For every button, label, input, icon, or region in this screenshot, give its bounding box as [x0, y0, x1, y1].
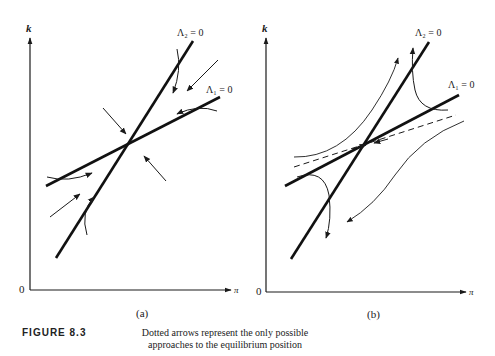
panel-a-sublabel: (a): [136, 307, 148, 319]
lambda2-line-b: [291, 42, 429, 259]
arrow-a-4: [50, 194, 80, 217]
stable-arm-dashed: [294, 115, 456, 167]
origin-label-b: 0: [256, 285, 262, 297]
lambda2-label-b: Λ₂ = 0: [415, 27, 441, 38]
figure-canvas: [0, 0, 495, 356]
lambda1-label-a: Λ₁ = 0: [206, 84, 232, 95]
figure-caption: Dotted arrows represent the only possibl…: [120, 327, 330, 351]
panel-b-sublabel: (b): [367, 308, 380, 320]
trajectory-b-lower-right: [347, 121, 464, 222]
x-axis-label-a: π: [234, 285, 239, 295]
panel-a: [30, 38, 231, 290]
x-axis-label-b: π: [469, 287, 474, 297]
curved-arrow-b-top: [412, 48, 448, 110]
lambda2-line-a: [56, 41, 193, 258]
lambda2-label-a: Λ₂ = 0: [177, 27, 203, 38]
y-axis-label-b: k: [262, 22, 268, 34]
caption-line-1: Dotted arrows represent the only possibl…: [120, 327, 330, 339]
caption-line-2: approaches to the equilibrium position: [120, 339, 330, 351]
origin-label-a: 0: [19, 283, 25, 295]
arrow-a-2: [103, 108, 126, 134]
y-axis-label-a: k: [26, 22, 32, 34]
lambda1-line-a: [46, 97, 220, 186]
curved-arrow-a-bottom: [85, 197, 94, 235]
trajectory-b-upper-left: [294, 58, 398, 157]
figure-label: FIGURE 8.3: [22, 327, 86, 338]
lambda1-label-b: Λ₁ = 0: [448, 79, 474, 90]
panel-b: [266, 38, 466, 292]
arrow-a-3: [144, 156, 166, 181]
